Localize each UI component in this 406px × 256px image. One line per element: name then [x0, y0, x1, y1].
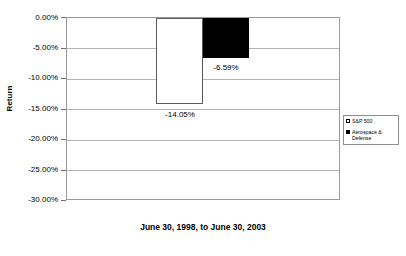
chart-legend: S&P 500 Aerospace & Defense	[343, 115, 399, 145]
y-axis-tick-label: -25.00%	[0, 166, 58, 174]
gridline	[67, 79, 339, 80]
legend-item-aerospace-defense[interactable]: Aerospace & Defense	[346, 129, 396, 141]
legend-label: Aerospace & Defense	[352, 129, 396, 141]
y-axis-tick-label: -10.00%	[0, 74, 58, 82]
y-axis-tick-label: -15.00%	[0, 105, 58, 113]
legend-item-sp500[interactable]: S&P 500	[346, 118, 396, 124]
bar-sp500[interactable]	[156, 18, 203, 104]
x-axis-title: June 30, 1998, to June 30, 2003	[66, 222, 340, 232]
bar-aerospace-defense[interactable]	[203, 18, 249, 58]
y-axis-tick-label: 0.00%	[0, 14, 58, 22]
gridline	[67, 170, 339, 171]
gridline	[67, 140, 339, 141]
legend-swatch-filled-icon	[346, 130, 350, 134]
legend-label: S&P 500	[352, 118, 396, 124]
bar-label-sp500: -14.05%	[149, 110, 211, 119]
bar-label-aerospace-defense: -6.59%	[195, 63, 257, 72]
bar-chart: Return 0.00% -5.00% -10.00% -15.00% -20.…	[0, 0, 406, 256]
y-axis-tick-label: -30.00%	[0, 196, 58, 204]
y-axis-tick-label: -5.00%	[0, 44, 58, 52]
legend-swatch-open-icon	[346, 119, 350, 123]
y-axis-tick-mark	[61, 200, 66, 201]
y-axis-tick-label: -20.00%	[0, 135, 58, 143]
plot-area: -14.05% -6.59%	[66, 17, 340, 200]
